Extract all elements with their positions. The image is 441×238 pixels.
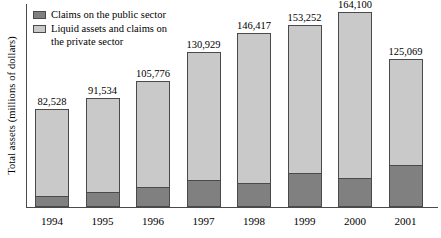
bar-stack-1999[interactable] [288, 25, 322, 207]
bar-segment-private-sector-2001[interactable] [390, 60, 422, 165]
bar-value-label-1995: 91,534 [88, 85, 117, 96]
bar-value-label-2001: 125,069 [388, 46, 422, 57]
bar-segment-public-sector-1995[interactable] [87, 192, 119, 206]
x-tick-label-1996: 1996 [127, 215, 179, 227]
legend-item-private-sector: Liquid assets and claims on the private … [33, 22, 233, 48]
legend-swatch-icon-private-sector [33, 25, 46, 33]
bar-group-1994: 82,528 [35, 109, 69, 207]
x-tick-label-1997: 1997 [178, 215, 230, 227]
bar-stack-1998[interactable] [237, 33, 271, 207]
bar-group-1999: 153,252 [288, 25, 322, 207]
legend-label-public-sector: Claims on the public sector [51, 8, 166, 21]
bar-segment-public-sector-1997[interactable] [188, 180, 220, 206]
bar-value-label-1994: 82,528 [38, 96, 67, 107]
bar-stack-1995[interactable] [86, 98, 120, 207]
bar-group-2001: 125,069 [389, 59, 423, 207]
bar-segment-private-sector-1999[interactable] [289, 26, 321, 173]
bar-segment-public-sector-2000[interactable] [339, 178, 371, 206]
x-tick-label-2000: 2000 [329, 215, 381, 227]
bar-group-1995: 91,534 [86, 98, 120, 207]
legend-label-private-sector: Liquid assets and claims on the private … [51, 22, 167, 48]
bar-segment-public-sector-1994[interactable] [36, 196, 68, 206]
bar-stack-1994[interactable] [35, 109, 69, 207]
y-axis-title: Total assets (millions of dollars) [0, 0, 22, 210]
x-tick-label-1995: 1995 [77, 215, 129, 227]
bar-segment-public-sector-2001[interactable] [390, 165, 422, 206]
bar-segment-private-sector-2000[interactable] [339, 13, 371, 178]
bar-stack-1996[interactable] [136, 81, 170, 207]
bar-group-2000: 164,100 [338, 12, 372, 207]
bar-stack-2001[interactable] [389, 59, 423, 207]
bar-value-label-2000: 164,100 [338, 0, 372, 10]
bar-value-label-1996: 105,776 [136, 68, 170, 79]
bar-value-label-1999: 153,252 [287, 12, 321, 23]
stacked-bar-chart: Total assets (millions of dollars) 82,52… [0, 0, 441, 238]
bar-group-1997: 130,929 [187, 52, 221, 207]
bar-segment-private-sector-1998[interactable] [238, 34, 270, 183]
legend-swatch-icon-public-sector [33, 11, 46, 19]
bar-value-label-1998: 146,417 [237, 20, 271, 31]
bar-group-1998: 146,417 [237, 33, 271, 207]
x-tick-label-1999: 1999 [279, 215, 331, 227]
bar-segment-public-sector-1999[interactable] [289, 173, 321, 206]
bar-segment-public-sector-1996[interactable] [137, 187, 169, 206]
bar-segment-private-sector-1997[interactable] [188, 53, 220, 180]
x-axis-line [26, 207, 438, 208]
x-tick-label-1994: 1994 [26, 215, 78, 227]
legend-label-private-sector-line-1: Liquid assets and claims on [51, 22, 167, 35]
legend-label-private-sector-line-2: the private sector [51, 35, 167, 48]
chart-legend: Claims on the public sector Liquid asset… [33, 8, 233, 49]
y-axis-line [26, 4, 27, 208]
bar-segment-private-sector-1996[interactable] [137, 82, 169, 187]
bar-stack-1997[interactable] [187, 52, 221, 207]
x-tick-label-2001: 2001 [380, 215, 432, 227]
legend-item-public-sector: Claims on the public sector [33, 8, 233, 21]
x-tick-label-1998: 1998 [228, 215, 280, 227]
y-axis-title-text: Total assets (millions of dollars) [6, 36, 17, 175]
bar-stack-2000[interactable] [338, 12, 372, 207]
bar-segment-public-sector-1998[interactable] [238, 183, 270, 206]
bar-group-1996: 105,776 [136, 81, 170, 207]
bar-segment-private-sector-1995[interactable] [87, 99, 119, 192]
bar-segment-private-sector-1994[interactable] [36, 110, 68, 196]
